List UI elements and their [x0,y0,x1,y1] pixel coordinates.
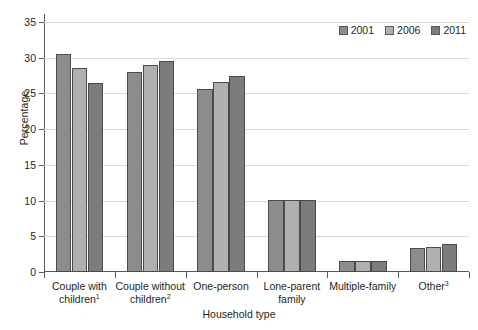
y-tick-label: 15 [24,159,36,171]
bar-group [127,22,175,272]
bar [300,200,316,272]
legend-entry: 2001 [339,24,374,36]
bar [284,200,300,272]
gridline [44,201,469,202]
gridline [44,236,469,237]
bar-group [410,22,458,272]
y-tick-label: 5 [30,230,36,242]
y-tick-mark [39,58,44,59]
y-tick-mark [39,236,44,237]
x-axis-label-line: Other3 [392,280,475,293]
x-tick-mark [469,272,470,278]
y-tick-label: 35 [24,16,36,28]
bar-group [339,22,387,272]
gridline [44,22,469,23]
legend-entry: 2011 [431,24,466,36]
x-tick-mark [186,272,187,278]
bar [88,83,104,272]
footnote-marker: 1 [96,292,100,299]
bar [197,89,213,272]
gridline [44,58,469,59]
x-tick-mark [257,272,258,278]
x-tick-mark [327,272,328,278]
legend-label: 2001 [351,24,374,36]
bar-group [197,22,245,272]
y-tick-mark [39,129,44,130]
y-tick-mark [39,22,44,23]
y-tick-label: 20 [24,123,36,135]
bar [229,76,245,272]
x-axis-label-line: children2 [109,293,192,306]
bar [426,247,442,272]
bar [410,248,426,272]
legend-entry: 2006 [385,24,420,36]
legend-swatch [385,26,394,35]
bar [442,244,458,272]
bar [213,82,229,272]
legend-swatch [339,26,348,35]
gridline [44,129,469,130]
x-axis-title: Household type [0,308,478,320]
bar-group [268,22,316,272]
x-tick-mark [115,272,116,278]
bar [159,61,175,272]
footnote-marker: 2 [167,292,171,299]
bar [56,54,72,272]
y-tick-label: 30 [24,52,36,64]
y-tick-label: 10 [24,195,36,207]
y-tick-mark [39,93,44,94]
gridline [44,93,469,94]
bar [339,261,355,272]
footnote-marker: 3 [445,280,449,287]
y-tick-label: 25 [24,87,36,99]
x-axis-label: Other3 [392,280,475,293]
bar [127,72,143,272]
plot-area: 05101520253035 [44,22,469,272]
x-tick-mark [44,272,45,278]
legend-swatch [431,26,440,35]
x-axis-label-line: family [251,293,334,306]
x-tick-mark [398,272,399,278]
legend-label: 2011 [443,24,466,36]
bar [268,200,284,272]
bar-group [56,22,104,272]
y-axis-line [44,14,45,272]
y-tick-label: 0 [30,266,36,278]
bar-chart: Percentage 05101520253035 Couple withchi… [0,0,478,330]
gridline [44,165,469,166]
bar [371,261,387,272]
bar [72,68,88,272]
y-tick-mark [39,165,44,166]
bar [355,261,371,272]
x-axis-labels: Couple withchildren1Couple withoutchildr… [44,280,469,310]
bar [143,65,159,272]
legend: 200120062011 [339,24,466,36]
legend-label: 2006 [397,24,420,36]
y-tick-mark [39,201,44,202]
